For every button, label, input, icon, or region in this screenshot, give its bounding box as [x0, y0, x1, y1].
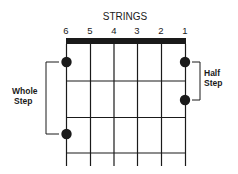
- string-number-1: 1: [182, 25, 187, 36]
- fretboard-diagram: STRINGS 6 5 4 3 2 1 Whole Step Half Step: [0, 0, 238, 174]
- dot-string1-fret1: [180, 57, 190, 67]
- whole-step-label-2: Step: [14, 96, 32, 106]
- half-step-label-2: Step: [204, 78, 222, 88]
- whole-step-label-1: Whole: [12, 86, 38, 96]
- string-number-6: 6: [63, 25, 68, 36]
- dot-string1-fret2: [180, 95, 190, 105]
- strings: [67, 44, 186, 166]
- half-step-bracket: [192, 62, 200, 100]
- string-number-3: 3: [134, 25, 139, 36]
- nut: [66, 38, 186, 44]
- whole-step-bracket: [46, 62, 59, 134]
- half-step-label-1: Half: [204, 68, 220, 78]
- dot-string6-fret3: [61, 129, 71, 139]
- finger-dots: [61, 57, 190, 139]
- string-number-4: 4: [111, 25, 116, 36]
- dot-string6-fret1: [61, 57, 71, 67]
- frets: [66, 81, 186, 153]
- string-number-5: 5: [87, 25, 92, 36]
- strings-title: STRINGS: [103, 11, 148, 22]
- string-number-2: 2: [158, 25, 163, 36]
